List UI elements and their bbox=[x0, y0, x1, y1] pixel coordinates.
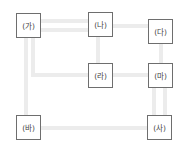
connector-ga-na-upper bbox=[41, 19, 88, 23]
node-na: (나) bbox=[88, 12, 113, 37]
node-ra: (라) bbox=[88, 63, 113, 88]
node-ba: (바) bbox=[16, 115, 41, 140]
connector-na-ra bbox=[96, 37, 100, 63]
node-label: (마) bbox=[154, 70, 166, 81]
node-label: (사) bbox=[153, 122, 165, 133]
node-label: (바) bbox=[22, 122, 34, 133]
node-label: (라) bbox=[94, 70, 106, 81]
node-sa: (사) bbox=[147, 115, 172, 140]
connector-ga-ra-horizontal bbox=[31, 73, 88, 77]
connector-ga-ba bbox=[24, 38, 28, 115]
node-label: (가) bbox=[22, 20, 34, 31]
node-da: (다) bbox=[148, 19, 173, 44]
node-label: (나) bbox=[94, 19, 106, 30]
node-label: (다) bbox=[154, 26, 166, 37]
node-ga: (가) bbox=[16, 13, 41, 38]
connector-ga-na-lower bbox=[41, 28, 88, 32]
connector-ba-sa bbox=[41, 126, 147, 130]
connector-ma-sa-right bbox=[163, 88, 167, 115]
connector-ga-ra-vertical bbox=[31, 38, 35, 77]
connector-na-da bbox=[113, 24, 148, 28]
connector-da-ma bbox=[159, 44, 163, 63]
diagram-canvas: (가) (나) (다) (라) (마) (바) (사) bbox=[0, 0, 184, 152]
node-ma: (마) bbox=[148, 63, 173, 88]
connector-ma-sa-left bbox=[152, 88, 156, 115]
connector-ra-ma bbox=[113, 73, 148, 77]
